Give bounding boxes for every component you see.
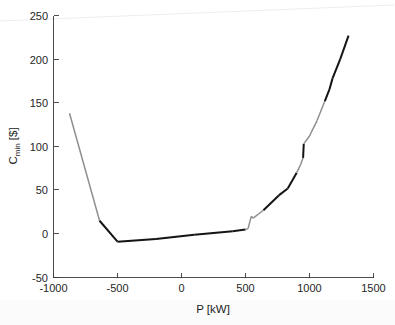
chart-canvas: 250 200 150 100 50 0 -50 -1000 -500 0 50… [0, 0, 395, 325]
y-axis-title-unit: [$] [7, 127, 19, 143]
y-axis-title-base: C [7, 156, 19, 164]
series-segment [303, 144, 304, 158]
x-tick-label-1500: 1500 [361, 282, 385, 294]
x-tick-label-500: 500 [236, 282, 254, 294]
y-tick-label-50: 50 [36, 184, 48, 196]
x-tick-label-0: 0 [178, 282, 184, 294]
x-tick-label-1000: 1000 [297, 282, 321, 294]
y-axis-title-subscript: min [13, 143, 22, 156]
chart-figure: 250 200 150 100 50 0 -50 -1000 -500 0 50… [0, 0, 395, 325]
y-tick-label-100: 100 [30, 141, 48, 153]
y-tick-label-150: 150 [30, 97, 48, 109]
x-axis-title: P [kW] [196, 303, 230, 315]
y-tick-label-0: 0 [42, 228, 48, 240]
y-tick-label-200: 200 [30, 54, 48, 66]
y-tick-label-250: 250 [30, 10, 48, 22]
series-segment [246, 229, 249, 230]
x-tick-label-neg500: -500 [106, 282, 128, 294]
x-tick-label-neg1000: -1000 [39, 282, 67, 294]
figure-background [0, 0, 395, 325]
